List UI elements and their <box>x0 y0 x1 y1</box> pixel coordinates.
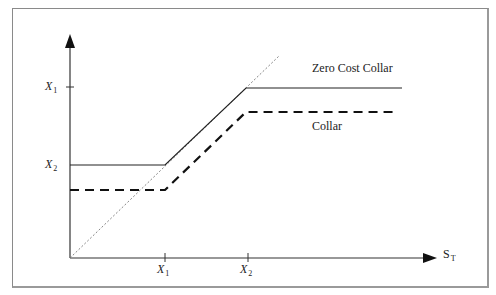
collar-payoff-diagram <box>0 0 496 295</box>
zero-cost-collar-line <box>70 88 402 165</box>
x-label-x1: X1 <box>157 263 169 278</box>
collar-label: Collar <box>312 120 342 132</box>
x-label-x2: X2 <box>240 263 252 278</box>
collar-line <box>70 112 398 190</box>
x-axis-title: ST <box>443 248 456 263</box>
y-axis-arrow-icon <box>65 34 75 48</box>
y-label-x1: X1 <box>45 80 57 95</box>
y-label-x2: X2 <box>45 158 57 173</box>
x-axis-arrow-icon <box>423 253 437 263</box>
underlying-line <box>70 56 279 258</box>
zero-cost-collar-label: Zero Cost Collar <box>312 62 393 74</box>
